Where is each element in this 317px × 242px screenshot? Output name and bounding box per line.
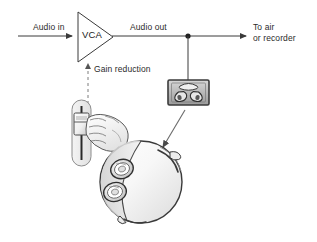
label-audio-in: Audio in xyxy=(33,22,65,33)
label-to-air: To air or recorder xyxy=(253,22,296,43)
signal-flow-diagram: Audio in Audio out To air or recorder Ga… xyxy=(0,0,317,242)
label-to-air-line2: or recorder xyxy=(253,33,296,43)
fader-knob-grip xyxy=(76,116,87,120)
sound-arrow-group xyxy=(163,110,185,147)
label-gain-reduction: Gain reduction xyxy=(94,64,151,75)
monitor-to-listener-arrow xyxy=(163,110,185,147)
headphone-band-tip xyxy=(170,152,181,160)
label-audio-out: Audio out xyxy=(130,22,167,33)
label-vca: VCA xyxy=(82,30,102,41)
speaker-tweeter xyxy=(179,84,198,91)
label-to-air-line1: To air xyxy=(253,22,274,32)
listener-head xyxy=(100,141,182,224)
loudspeaker-icon xyxy=(168,80,209,105)
